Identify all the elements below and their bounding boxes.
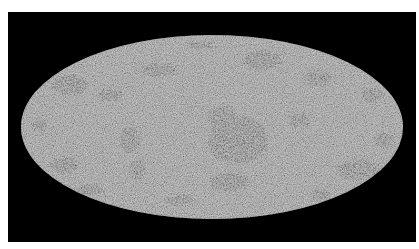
- noise-texture: [21, 35, 403, 219]
- sky-map: [0, 0, 419, 249]
